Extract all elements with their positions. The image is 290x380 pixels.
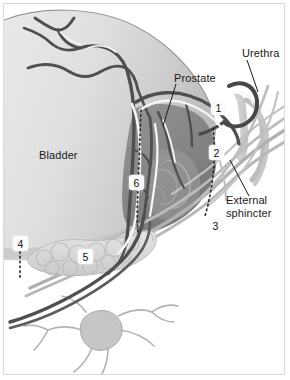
- label-urethra: Urethra: [242, 47, 279, 60]
- marker-4: 4: [13, 236, 28, 251]
- marker-2: 2: [209, 145, 224, 160]
- marker-1: 1: [211, 100, 226, 115]
- marker-5: 5: [78, 249, 93, 264]
- label-prostate: Prostate: [174, 72, 216, 85]
- anatomical-figure: Bladder Prostate Urethra External sphinc…: [0, 0, 290, 380]
- label-external-sphincter-line2: sphincter: [226, 207, 272, 220]
- label-external-sphincter-line1: External: [226, 194, 267, 207]
- label-bladder: Bladder: [39, 149, 78, 162]
- marker-3: 3: [208, 218, 223, 233]
- marker-6: 6: [129, 175, 144, 190]
